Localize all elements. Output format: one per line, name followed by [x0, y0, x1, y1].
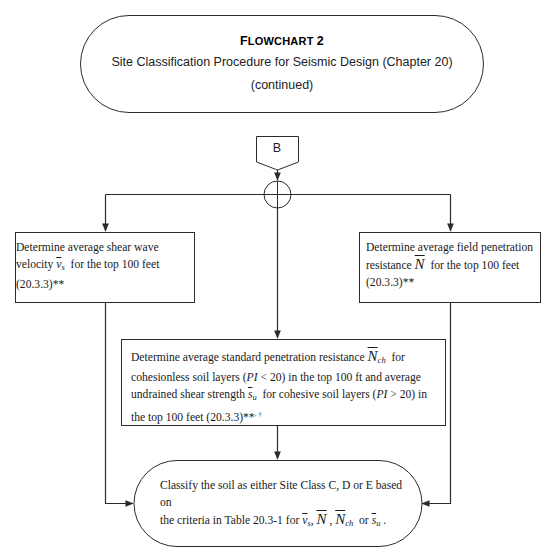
field-penetration-resistance-step: Determine average field penetration resi…: [366, 239, 538, 291]
classify-soil-terminator: Classify the soil as either Site Class C…: [160, 477, 410, 532]
flowchart-label: FLOWCHART 2: [240, 31, 324, 51]
title-block: FLOWCHART 2 Site Classification Procedur…: [80, 15, 484, 113]
n-bar-symbol: N: [415, 256, 425, 272]
nch-symbol: N: [368, 348, 378, 364]
connector-b-label: B: [256, 141, 298, 155]
flowchart-subtitle: Site Classification Procedure for Seismi…: [111, 51, 452, 74]
standard-penetration-and-shear-strength-step: Determine average standard penetration r…: [131, 348, 441, 426]
shear-wave-velocity-step: Determine average shear wave velocity vs…: [16, 239, 192, 293]
flowchart-continued: (continued): [251, 74, 314, 97]
flowchart-canvas: FLOWCHART 2 Site Classification Procedur…: [0, 0, 556, 553]
